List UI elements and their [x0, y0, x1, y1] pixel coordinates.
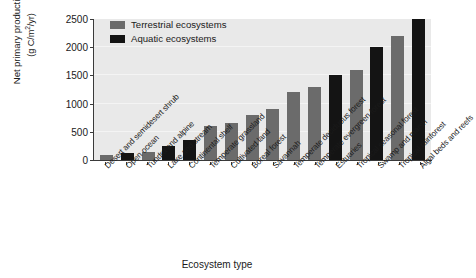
y-axis-title-units-exponent: 2 [24, 26, 31, 30]
y-axis-title-line2: (g C/m2/yr) [22, 13, 37, 56]
y-axis-tick-mark [90, 47, 94, 48]
y-axis-title-units-suffix: /yr) [26, 13, 36, 26]
y-axis-title-line1: Net primary productivity [11, 0, 22, 84]
y-axis-tick-mark [90, 132, 94, 133]
y-axis-tick-label: 1500 [66, 70, 88, 81]
y-axis-tick-label: 1000 [66, 98, 88, 109]
y-axis-tick-label: 2000 [66, 42, 88, 53]
y-axis-tick-label: 2500 [66, 14, 88, 25]
y-axis-title-units-prefix: (g C/m [26, 30, 36, 57]
y-axis-tick-label: 0 [82, 155, 88, 166]
chart-legend: Terrestrial ecosystemsAquatic ecosystems [110, 18, 226, 46]
y-axis-tick-label: 500 [71, 126, 88, 137]
legend-swatch-aquatic [110, 35, 125, 43]
y-axis-tick-labels: 05001000150020002500 [52, 0, 88, 170]
y-axis-tick-mark [90, 104, 94, 105]
x-axis-tick-labels: Desert and semidesert shrubOpen oceanTun… [94, 162, 431, 262]
x-axis-title: Ecosystem type [0, 259, 434, 270]
y-axis-tick-mark [90, 75, 94, 76]
legend-item: Terrestrial ecosystems [110, 18, 226, 31]
y-axis-tick-mark [90, 160, 94, 161]
legend-item: Aquatic ecosystems [110, 32, 226, 45]
legend-swatch-terrestrial [110, 21, 125, 29]
y-axis-tick-mark [90, 19, 94, 20]
legend-item-label: Aquatic ecosystems [131, 33, 216, 44]
legend-item-label: Terrestrial ecosystems [131, 19, 226, 30]
y-axis-title: Net primary productivity (g C/m2/yr) [7, 0, 41, 109]
